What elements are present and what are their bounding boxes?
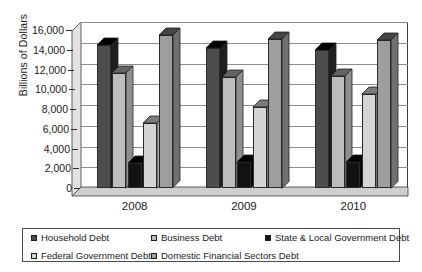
bar-top-face bbox=[222, 70, 236, 77]
legend-row-1: Household Debt Business Debt State & Loc… bbox=[23, 233, 399, 247]
bar-face bbox=[377, 40, 391, 188]
y-axis-tick-label: 12,000 bbox=[4, 65, 66, 75]
bar-top-face bbox=[237, 155, 251, 162]
y-tick-mark bbox=[72, 149, 78, 150]
y-axis-tick-label: 2,000 bbox=[9, 163, 71, 173]
legend-swatch-icon bbox=[151, 235, 157, 241]
y-tick-mark bbox=[73, 168, 79, 169]
bar[interactable] bbox=[377, 40, 391, 188]
x-axis-category-label: 2009 bbox=[189, 200, 298, 212]
gridline bbox=[80, 43, 408, 44]
bar[interactable] bbox=[268, 39, 282, 188]
y-axis-tick-label: 10,000 bbox=[5, 84, 67, 94]
y-axis-tick-label: 4,000 bbox=[8, 144, 70, 154]
bar-side-face bbox=[282, 32, 289, 188]
legend-label: Household Debt bbox=[41, 233, 109, 243]
legend-label: Business Debt bbox=[161, 233, 222, 243]
bar-side-face bbox=[173, 28, 180, 188]
bar[interactable] bbox=[237, 162, 251, 188]
bar-top-face bbox=[97, 38, 111, 45]
bar-top-face bbox=[206, 41, 220, 48]
bar-top-face bbox=[346, 155, 360, 162]
bar-face bbox=[143, 123, 157, 188]
gridline bbox=[80, 64, 408, 65]
y-axis-tick-label: 8,000 bbox=[6, 104, 68, 114]
bar-top-face bbox=[377, 33, 391, 40]
bar-face bbox=[128, 163, 142, 188]
plot-floor bbox=[72, 187, 408, 196]
bar-face bbox=[159, 35, 173, 188]
bar[interactable] bbox=[97, 45, 111, 188]
legend-label: State & Local Government Debt bbox=[275, 233, 409, 243]
bar-top-face bbox=[362, 87, 376, 94]
bar-face bbox=[346, 162, 360, 188]
bar-top-face bbox=[331, 69, 345, 76]
y-axis-tick-label: 0 bbox=[10, 183, 72, 193]
legend-swatch-icon bbox=[265, 235, 271, 241]
plot-area bbox=[72, 22, 408, 196]
bar-face bbox=[268, 39, 282, 188]
legend: Household Debt Business Debt State & Loc… bbox=[22, 228, 400, 262]
bar-face bbox=[331, 76, 345, 188]
legend-swatch-icon bbox=[31, 253, 37, 259]
bar-top-face bbox=[253, 100, 267, 107]
bar-top-face bbox=[128, 156, 142, 163]
y-tick-mark bbox=[74, 188, 80, 189]
gridline bbox=[80, 22, 408, 23]
legend-swatch-icon bbox=[151, 253, 157, 259]
bar[interactable] bbox=[362, 94, 376, 188]
bar-face bbox=[222, 77, 236, 188]
bar[interactable] bbox=[112, 73, 126, 188]
bar-face bbox=[206, 48, 220, 188]
y-axis-tick-label: 6,000 bbox=[7, 124, 69, 134]
y-axis-tick-label: 14,000 bbox=[3, 45, 65, 55]
bar-side-face bbox=[391, 33, 398, 188]
bar-chart: Billions of Dollars 02,0004,0006,0008,00… bbox=[0, 0, 422, 272]
bar[interactable] bbox=[346, 162, 360, 188]
y-tick-mark bbox=[70, 109, 76, 110]
legend-item-federal-government-debt[interactable]: Federal Government Debt bbox=[31, 251, 151, 261]
bar-top-face bbox=[268, 32, 282, 39]
y-tick-mark bbox=[68, 70, 74, 71]
y-tick-mark bbox=[66, 30, 72, 31]
bar[interactable] bbox=[128, 163, 142, 188]
bar[interactable] bbox=[143, 123, 157, 188]
bar-face bbox=[97, 45, 111, 188]
bar[interactable] bbox=[315, 50, 329, 188]
x-axis-category-label: 2008 bbox=[80, 200, 189, 212]
legend-label: Federal Government Debt bbox=[41, 251, 151, 261]
bar-face bbox=[362, 94, 376, 188]
legend-swatch-icon bbox=[31, 235, 37, 241]
bar[interactable] bbox=[222, 77, 236, 188]
y-tick-mark bbox=[67, 50, 73, 51]
bar[interactable] bbox=[331, 76, 345, 188]
legend-item-state-local-government-debt[interactable]: State & Local Government Debt bbox=[265, 233, 409, 243]
bar-face bbox=[112, 73, 126, 188]
bar-face bbox=[237, 162, 251, 188]
bar-top-face bbox=[159, 28, 173, 35]
legend-label: Domestic Financial Sectors Debt bbox=[161, 251, 299, 261]
legend-row-2: Federal Government Debt Domestic Financi… bbox=[23, 251, 399, 265]
bar-top-face bbox=[143, 116, 157, 123]
bar-top-face bbox=[315, 43, 329, 50]
y-axis-tick-label: 16,000 bbox=[2, 25, 64, 35]
bar[interactable] bbox=[206, 48, 220, 188]
legend-item-domestic-financial-sectors-debt[interactable]: Domestic Financial Sectors Debt bbox=[151, 251, 299, 261]
y-tick-mark bbox=[69, 89, 75, 90]
bar[interactable] bbox=[253, 107, 267, 188]
legend-item-business-debt[interactable]: Business Debt bbox=[151, 233, 222, 243]
bar-top-face bbox=[112, 66, 126, 73]
x-axis-category-label: 2010 bbox=[299, 200, 408, 212]
bar-face bbox=[315, 50, 329, 188]
bar-face bbox=[253, 107, 267, 188]
y-tick-mark bbox=[71, 129, 77, 130]
bar[interactable] bbox=[159, 35, 173, 188]
legend-item-household-debt[interactable]: Household Debt bbox=[31, 233, 109, 243]
